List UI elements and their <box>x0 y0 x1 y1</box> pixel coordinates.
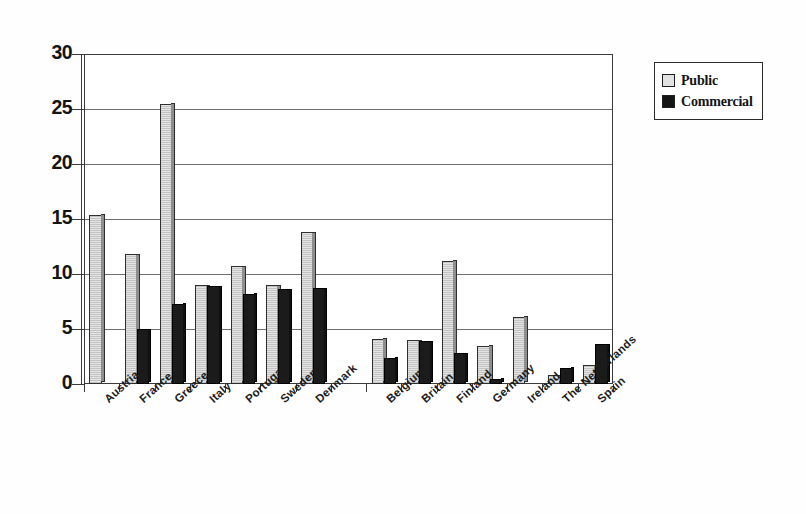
x-label-austria: Austria <box>102 368 141 405</box>
legend-item-public: Public <box>662 70 753 91</box>
legend-label-public: Public <box>681 73 718 89</box>
public-swatch-icon <box>662 74 675 87</box>
commercial-swatch-icon <box>662 95 675 108</box>
chart-legend: Public Commercial <box>654 62 763 120</box>
x-label-finland: Finland <box>454 367 494 405</box>
legend-item-commercial: Commercial <box>662 91 753 112</box>
x-label-greece: Greece <box>172 369 210 405</box>
x-label-spain: Spain <box>595 374 627 405</box>
x-label-italy: Italy <box>207 380 233 405</box>
x-label-france: France <box>137 370 174 405</box>
x-label-denmark: Denmark <box>313 362 359 405</box>
legend-label-commercial: Commercial <box>681 94 753 110</box>
chart-figure: 051015202530 AustriaFranceGreeceItalyPor… <box>0 0 806 514</box>
